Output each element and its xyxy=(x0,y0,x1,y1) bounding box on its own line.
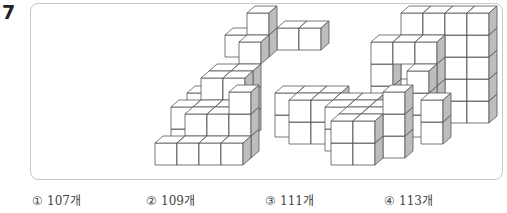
cube-front-face xyxy=(185,114,207,136)
cube-front-face xyxy=(371,42,393,64)
cube-front-face xyxy=(415,42,437,64)
cube-front-face xyxy=(467,57,489,79)
choice-1[interactable]: ①107개 xyxy=(32,191,81,208)
cube-front-face xyxy=(199,143,221,165)
cube-front-face xyxy=(229,92,251,114)
choice-3-label: 111개 xyxy=(280,194,314,208)
cube-stack-figure xyxy=(31,4,504,181)
cube-front-face xyxy=(401,13,423,35)
cube-front-face xyxy=(201,78,223,100)
answer-choices: ①107개 ②109개 ③111개 ④113개 xyxy=(0,191,507,211)
cube-front-face xyxy=(331,143,353,165)
cube-front-face xyxy=(421,100,443,122)
cube-front-face xyxy=(445,13,467,35)
cube-front-face xyxy=(371,64,393,86)
cube-front-face xyxy=(467,79,489,101)
choice-1-label: 107개 xyxy=(47,194,81,208)
cube-front-face xyxy=(383,136,405,158)
choice-2-mark: ② xyxy=(146,194,157,208)
choice-3-mark: ③ xyxy=(265,194,276,208)
cube-front-face xyxy=(393,42,415,64)
cube-front-face xyxy=(229,114,251,136)
choice-3[interactable]: ③111개 xyxy=(265,191,314,208)
cube-front-face xyxy=(247,13,269,35)
choice-4-mark: ④ xyxy=(384,194,395,208)
choice-4-label: 113개 xyxy=(399,194,433,208)
choice-4[interactable]: ④113개 xyxy=(384,191,433,208)
cube-front-face xyxy=(445,57,467,79)
cube-front-face xyxy=(155,143,177,165)
cube-front-face xyxy=(331,121,353,143)
cube-front-face xyxy=(353,121,375,143)
cube-front-face xyxy=(383,114,405,136)
cube-front-face xyxy=(239,42,261,64)
choice-2[interactable]: ②109개 xyxy=(146,191,195,208)
choice-2-label: 109개 xyxy=(161,194,195,208)
cube-front-face xyxy=(353,143,375,165)
question-number: 7 xyxy=(2,1,15,23)
cube-front-face xyxy=(299,28,321,50)
cube-front-face xyxy=(207,114,229,136)
cube-front-face xyxy=(467,101,489,123)
cube-front-face xyxy=(467,35,489,57)
cube-front-face xyxy=(383,92,405,114)
cube-front-face xyxy=(277,28,299,50)
cube-front-face xyxy=(177,143,199,165)
cube-front-face xyxy=(445,35,467,57)
cube-front-face xyxy=(467,13,489,35)
cube-front-face xyxy=(289,122,311,144)
cube-front-face xyxy=(421,122,443,144)
cube-front-face xyxy=(423,13,445,35)
cube-front-face xyxy=(289,100,311,122)
cube-front-face xyxy=(221,143,243,165)
figure-box xyxy=(30,3,503,180)
choice-1-mark: ① xyxy=(32,194,43,208)
